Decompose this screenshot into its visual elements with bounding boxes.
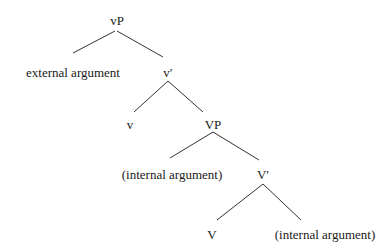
edge-v-bar-v: [134, 81, 168, 112]
node-v-bar: v′: [163, 66, 172, 79]
node-VP: VP: [205, 118, 222, 131]
node-V-bar: V′: [257, 168, 269, 181]
node-V: V: [207, 228, 216, 241]
edge-v-bar-VP: [168, 81, 203, 112]
node-external-argument: external argument: [26, 66, 120, 79]
node-internal-argument-2: (internal argument): [275, 228, 375, 241]
node-v: v: [127, 118, 134, 131]
edge-V-bar-internal-argument: [263, 184, 301, 220]
tree-edges: [0, 0, 391, 250]
node-vP: vP: [110, 14, 124, 27]
edge-VP-internal-argument: [170, 132, 213, 158]
edge-V-bar-V: [217, 184, 263, 220]
edge-vP-external-argument: [73, 31, 115, 53]
edge-VP-V-bar: [213, 132, 259, 160]
node-internal-argument-1: (internal argument): [122, 168, 222, 181]
edge-vP-v-bar: [117, 31, 163, 57]
syntax-tree: vP external argument v′ v VP (internal a…: [0, 0, 391, 250]
